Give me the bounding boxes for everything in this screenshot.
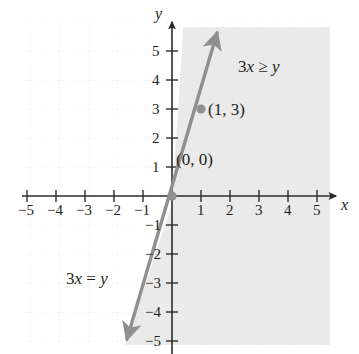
y-axis-name: y (155, 6, 162, 22)
boundary-equation-label: 3x = y (66, 270, 108, 287)
point-origin-marker (167, 191, 176, 200)
y-tick-label--5: −5 (145, 334, 161, 349)
x-tick-label-5: 5 (313, 203, 321, 218)
y-tick-label-2: 2 (152, 131, 160, 146)
inequality-operator: ≥ (254, 57, 272, 76)
point-1-3-marker (196, 104, 205, 113)
inequality-var-y: y (272, 57, 280, 76)
boundary-coefficient: 3 (66, 269, 75, 288)
y-tick-label--4: −4 (145, 305, 161, 320)
grid-lines (22, 22, 330, 345)
x-tick-label--4: −4 (47, 203, 63, 218)
graph-figure: −5 −4 −3 −2 −1 1 2 3 4 5 5 4 3 2 1 −1 −2… (0, 0, 359, 354)
boundary-operator: = (82, 269, 100, 288)
x-tick-label-3: 3 (255, 203, 263, 218)
y-tick-label-1: 1 (152, 160, 160, 175)
x-tick-label-4: 4 (284, 203, 292, 218)
x-tick-label-1: 1 (197, 203, 205, 218)
y-tick-label--3: −3 (145, 276, 161, 291)
x-tick-label--5: −5 (18, 203, 34, 218)
x-axis-name: x (341, 197, 348, 213)
point-1-3-label: (1, 3) (208, 101, 245, 118)
y-tick-label-4: 4 (152, 73, 160, 88)
boundary-var-x: x (75, 269, 83, 288)
y-tick-label--1: −1 (145, 218, 161, 233)
x-tick-label--2: −2 (105, 203, 121, 218)
y-tick-label-3: 3 (152, 102, 160, 117)
inequality-coefficient: 3 (238, 57, 247, 76)
x-tick-label-2: 2 (226, 203, 234, 218)
boundary-var-y: y (100, 269, 108, 288)
point-origin-label: (0, 0) (176, 151, 213, 168)
inequality-label: 3x ≥ y (238, 58, 279, 75)
y-tick-label-5: 5 (152, 44, 160, 59)
x-tick-label--3: −3 (76, 203, 92, 218)
inequality-var-x: x (247, 57, 255, 76)
y-tick-label--2: −2 (145, 247, 161, 262)
x-tick-label--1: −1 (134, 203, 150, 218)
coordinate-plane (0, 0, 359, 354)
